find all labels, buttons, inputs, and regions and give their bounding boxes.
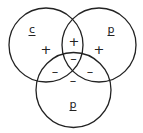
- label-c: c: [29, 23, 35, 36]
- venn-diagram: c p p + + + – – – –: [0, 0, 143, 133]
- sign-left-only: +: [41, 42, 52, 57]
- label-p-right: p: [108, 23, 115, 36]
- sign-right-bottom: –: [87, 64, 94, 79]
- sign-right-only: +: [94, 42, 105, 57]
- sign-center: –: [70, 51, 77, 66]
- label-p-bottom: p: [70, 98, 77, 111]
- sign-left-right: +: [69, 34, 80, 49]
- sign-bottom-top: –: [70, 73, 77, 88]
- sign-left-bottom: –: [52, 64, 59, 79]
